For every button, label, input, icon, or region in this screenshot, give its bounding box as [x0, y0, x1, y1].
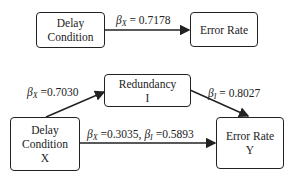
node-label: Error Rate — [200, 23, 248, 37]
path-x-to-i-coefficient: βX =0.7030 — [27, 86, 79, 100]
node-label: Delay — [31, 123, 58, 137]
path-x-to-y-coefficient: βX =0.3035, βI =0.5893 — [87, 128, 194, 142]
node-label: X — [41, 151, 49, 165]
node-label: Condition — [22, 137, 68, 151]
top-path-coefficient: βX = 0.7178 — [116, 14, 171, 28]
node-label: I — [146, 91, 150, 105]
node-label: Redundancy — [119, 77, 176, 91]
bottom-delay-condition-node: Delay Condition X — [10, 117, 80, 171]
redundancy-node: Redundancy I — [104, 74, 191, 107]
node-label: Error Rate — [226, 129, 274, 143]
node-label: Y — [246, 143, 254, 157]
bottom-error-rate-node: Error Rate Y — [216, 117, 284, 169]
top-error-rate-node: Error Rate — [190, 12, 258, 47]
top-delay-condition-node: Delay Condition — [36, 12, 105, 48]
node-label: Condition — [47, 30, 93, 44]
node-label: Delay — [57, 16, 84, 30]
path-i-to-y-coefficient: βI = 0.8027 — [208, 87, 260, 101]
